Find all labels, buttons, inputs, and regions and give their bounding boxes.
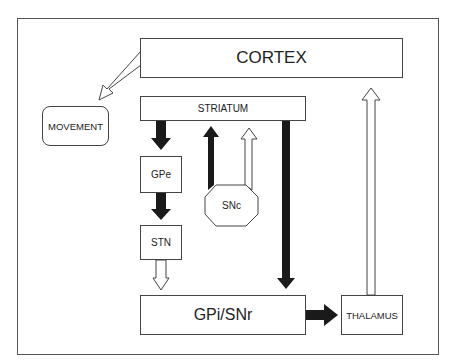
gpe-label: GPe [151,169,171,180]
cortex-node: CORTEX [140,38,403,78]
arrow-snc-to-striatum-open [241,128,257,190]
striatum-node: STRIATUM [140,96,306,121]
arrow-snc-to-striatum-filled [203,126,219,190]
movement-label: MOVEMENT [48,121,103,132]
arrow-striatum-to-gpi [277,121,295,289]
arrow-cortex-to-movement [97,51,141,100]
movement-node: MOVEMENT [42,106,109,146]
arrow-gpi-to-thalamus [305,304,338,326]
gpi-snr-label: GPi/SNr [194,306,253,324]
stn-node: STN [140,225,182,260]
arrow-striatum-to-gpe [151,121,171,150]
arrow-stn-to-gpi [153,260,169,290]
striatum-label: STRIATUM [198,103,248,114]
arrow-gpe-to-stn [151,193,171,220]
thalamus-node: THALAMUS [341,295,403,335]
gpi-snr-node: GPi/SNr [140,295,306,335]
gpe-node: GPe [140,156,182,193]
snc-label: SNc [222,200,241,211]
snc-node: SNc [205,185,258,226]
basal-ganglia-diagram: CORTEX STRIATUM MOVEMENT GPe STN SNc GPi… [0,0,456,362]
stn-label: STN [151,237,171,248]
thalamus-label: THALAMUS [346,310,398,321]
cortex-label: CORTEX [236,48,307,68]
arrow-thalamus-to-cortex [362,88,380,295]
